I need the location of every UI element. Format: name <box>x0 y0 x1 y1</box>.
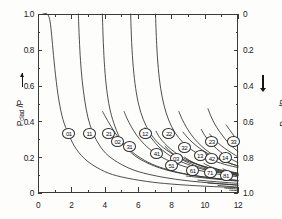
bottom-tick-minor <box>121 190 122 193</box>
left-tick-minor <box>38 32 40 33</box>
top-tick-major <box>138 14 139 19</box>
left-tick-label: 1.0 <box>8 9 34 19</box>
right-tick-minor <box>236 175 238 176</box>
y-left-title-main: P <box>15 121 25 127</box>
mode-label-11: 11 <box>83 128 96 139</box>
curve-layer <box>38 14 238 193</box>
bottom-tick-major <box>38 187 39 193</box>
left-tick-minor <box>38 175 40 176</box>
left-tick-major <box>38 50 42 51</box>
right-tick-label: 1.0 <box>243 188 253 198</box>
right-tick-major <box>234 50 238 51</box>
top-tick-major <box>205 14 206 19</box>
right-tick-label: 0 <box>243 9 247 19</box>
right-tick-label: 0.8 <box>243 153 253 163</box>
top-tick-minor <box>221 14 222 17</box>
right-tick-major <box>234 193 238 194</box>
bottom-tick-minor <box>188 190 189 193</box>
mode-curve <box>230 190 238 191</box>
bottom-tick-major <box>138 187 139 193</box>
bottom-tick-label: 10 <box>195 200 215 210</box>
left-tick-major <box>38 86 42 87</box>
top-tick-minor <box>88 14 89 17</box>
right-tick-major <box>234 157 238 158</box>
y-axis-right-title: Pcore /P <box>278 82 282 144</box>
bottom-tick-minor <box>155 190 156 193</box>
y-left-title-tail: /P <box>15 100 25 110</box>
top-tick-minor <box>188 14 189 17</box>
right-tick-label: 0.4 <box>243 81 253 91</box>
top-tick-major <box>238 14 239 19</box>
mode-label-23: 23 <box>205 136 218 147</box>
mode-label-31: 31 <box>123 141 136 152</box>
down-arrow-icon <box>262 75 264 88</box>
y-right-title-tail: /P <box>278 100 282 110</box>
bottom-tick-major <box>205 187 206 193</box>
left-tick-major <box>38 121 42 122</box>
right-tick-label: 0.6 <box>243 117 253 127</box>
y-axis-left-title: Pclad /P <box>15 82 25 144</box>
left-tick-major <box>38 157 42 158</box>
bottom-tick-minor <box>221 190 222 193</box>
bottom-tick-minor <box>55 190 56 193</box>
right-tick-minor <box>236 68 238 69</box>
right-tick-label: 0.2 <box>243 45 253 55</box>
top-tick-major <box>38 14 39 19</box>
right-tick-major <box>234 121 238 122</box>
left-tick-minor <box>38 139 40 140</box>
bottom-tick-label: 0 <box>28 200 48 210</box>
left-tick-major <box>38 193 42 194</box>
bottom-tick-major <box>171 187 172 193</box>
mode-label-22: 22 <box>162 128 175 139</box>
mode-label-12: 12 <box>139 128 152 139</box>
top-tick-major <box>71 14 72 19</box>
bottom-tick-label: 6 <box>128 200 148 210</box>
right-tick-major <box>234 86 238 87</box>
right-tick-minor <box>236 104 238 105</box>
top-tick-minor <box>155 14 156 17</box>
mode-curve <box>225 188 238 189</box>
mode-label-01: 01 <box>62 128 75 139</box>
left-tick-label: 0.8 <box>8 45 34 55</box>
bottom-tick-label: 2 <box>61 200 81 210</box>
bottom-tick-major <box>238 187 239 193</box>
left-tick-label: 0.2 <box>8 153 34 163</box>
bottom-tick-minor <box>88 190 89 193</box>
left-tick-minor <box>38 68 40 69</box>
bottom-tick-label: 8 <box>161 200 181 210</box>
top-tick-minor <box>55 14 56 17</box>
top-tick-minor <box>121 14 122 17</box>
y-right-title-main: P <box>278 121 282 127</box>
y-left-title-sub: clad <box>18 110 25 121</box>
right-tick-minor <box>236 32 238 33</box>
bottom-tick-label: 12 <box>228 200 248 210</box>
bottom-tick-label: 4 <box>95 200 115 210</box>
left-tick-label: 0 <box>8 188 34 198</box>
figure-canvas: 00.20.40.60.81.01.00.80.60.40.2002468101… <box>0 0 282 219</box>
mode-label-14: 14 <box>219 152 232 163</box>
top-tick-major <box>105 14 106 19</box>
bottom-tick-major <box>71 187 72 193</box>
top-tick-major <box>171 14 172 19</box>
mode-curve <box>156 14 239 168</box>
bottom-tick-major <box>105 187 106 193</box>
mode-label-33: 33 <box>227 136 240 147</box>
left-tick-minor <box>38 104 40 105</box>
mode-label-71: 71 <box>204 167 217 178</box>
y-right-title-sub: core <box>281 109 282 121</box>
